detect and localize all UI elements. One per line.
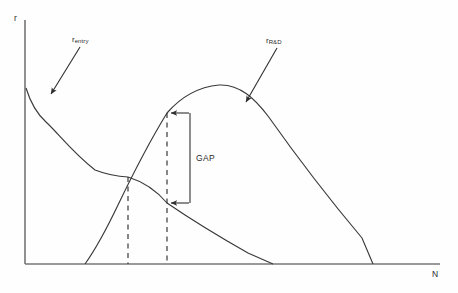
curve-label-r-rd: rR&D [266,37,282,45]
curve-label-r-entry: rentry [72,36,89,44]
y-axis-label: r [14,14,17,23]
curve-label-r-rd-subscript: R&D [269,39,282,45]
callout-arrow-r-entry [51,47,80,94]
chart-canvas [0,0,458,293]
x-axis-label: N [432,270,438,279]
gap-label: GAP [196,153,215,163]
curve-r-entry [26,88,273,264]
curve-label-r-entry-subscript: entry [75,38,89,44]
callout-arrow-r-rd [246,48,277,102]
figure-container: r N rentry rR&D GAP [0,0,458,293]
